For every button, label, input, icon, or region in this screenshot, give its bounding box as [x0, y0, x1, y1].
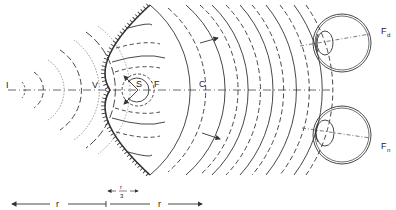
- label-c: C: [199, 79, 206, 89]
- label-v: V: [92, 80, 98, 90]
- label-fd-sub: d: [387, 32, 390, 38]
- optics-diagram: I V S F C F d F n r r 3 r: [0, 0, 396, 210]
- label-i: I: [6, 80, 9, 90]
- eye-distant: [300, 14, 371, 72]
- label-f: F: [154, 79, 160, 89]
- label-fn-sub: n: [387, 147, 390, 153]
- eye-near: [302, 106, 371, 164]
- scale-label-right: r: [158, 199, 161, 209]
- propagation-arrow-upper: [200, 38, 218, 43]
- concave-mirror: [103, 5, 150, 175]
- propagation-arrow-lower: [202, 133, 220, 139]
- scale-label-mid-num: r: [120, 184, 122, 190]
- label-s: S: [136, 79, 142, 89]
- scale-label-left: r: [56, 199, 59, 209]
- scale-bar: [12, 191, 202, 207]
- scale-label-mid-den: 3: [120, 193, 124, 199]
